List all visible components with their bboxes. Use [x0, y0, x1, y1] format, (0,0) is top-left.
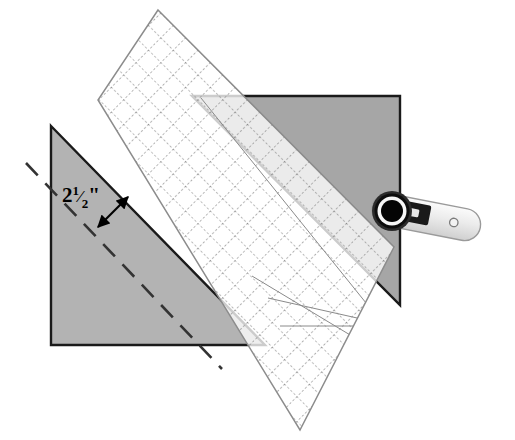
blade-hub-icon	[381, 200, 403, 222]
seam-allowance-measurement: 21⁄2"	[62, 183, 100, 211]
quilting-diagram-svg: 21⁄2"	[0, 0, 515, 440]
measure-unit: "	[88, 183, 100, 207]
measure-whole: 2	[62, 183, 73, 207]
illustration-canvas: 21⁄2"	[0, 0, 515, 440]
